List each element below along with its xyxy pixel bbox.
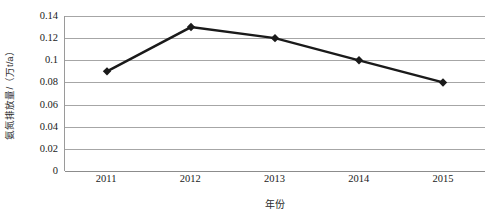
x-tick-label: 2013 [264, 174, 285, 185]
x-tick-label: 2011 [96, 174, 117, 185]
y-tick-label: 0.08 [40, 77, 58, 88]
x-axis-tick-labels: 20112012201320142015 [64, 174, 485, 190]
gridline [65, 171, 485, 172]
y-axis-title: 氨氮排放量/（万t/a） [0, 0, 18, 185]
x-axis-title: 年份 [64, 196, 485, 211]
y-tick-label: 0.14 [40, 11, 58, 22]
y-tick-label: 0.12 [40, 33, 58, 44]
data-point-marker [271, 34, 279, 42]
data-point-marker [187, 23, 195, 31]
x-tick-label: 2015 [432, 174, 453, 185]
x-tick-label: 2014 [348, 174, 369, 185]
y-axis-tick-labels: 00.020.040.060.080.10.120.14 [18, 9, 62, 171]
x-tick-label: 2012 [180, 174, 201, 185]
y-tick-label: 0.04 [40, 121, 58, 132]
y-axis-title-text: 氨氮排放量/（万t/a） [2, 46, 16, 139]
series-line [65, 16, 485, 171]
y-tick-label: 0.1 [45, 55, 58, 66]
plot-area [64, 16, 485, 171]
y-tick-label: 0.02 [40, 144, 58, 155]
y-tick-label: 0 [53, 166, 58, 177]
data-point-marker [439, 78, 447, 86]
y-tick-label: 0.06 [40, 99, 58, 110]
line-chart: 氨氮排放量/（万t/a） 00.020.040.060.080.10.120.1… [0, 0, 496, 223]
data-point-marker [103, 67, 111, 75]
data-point-marker [355, 56, 363, 64]
